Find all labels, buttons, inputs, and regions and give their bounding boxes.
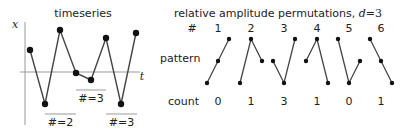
permutation-columns: 102133415061 [205,22,394,108]
pattern-point [293,37,297,41]
timeseries-point [27,47,33,53]
timeseries-point [57,27,63,33]
permutation-pattern [273,39,295,83]
permutation-index: 3 [281,22,288,35]
pattern-point [326,81,330,85]
pattern-point [358,59,362,63]
pattern-point [368,37,372,41]
permutation-count: 1 [378,95,385,108]
annotation-label: #=3 [109,116,134,129]
annotation-label: #=3 [78,92,103,105]
permutation-count: 1 [314,95,321,108]
timeseries-title: timeseries [54,7,112,20]
permutation-column: 41 [304,22,330,108]
pattern-point [205,81,209,85]
permutation-pattern [306,39,328,83]
timeseries-point [133,30,139,36]
annotation-label: #=2 [48,116,73,129]
pattern-point [271,59,275,63]
t-axis-label: t [140,70,145,83]
pattern-point [390,81,394,85]
pattern-point [304,59,308,63]
permutation-pattern [338,39,360,83]
timeseries-point [118,101,124,107]
permutation-index: 6 [378,22,385,35]
pattern-point [227,37,231,41]
permutation-column: 10 [205,22,231,108]
index-row-label: # [187,22,196,35]
permutation-count: 3 [281,95,288,108]
pattern-point [347,81,351,85]
permutation-index: 2 [248,22,255,35]
pattern-point [249,37,253,41]
pattern-point [216,59,220,63]
timeseries-panel: timeseries x t #=2#=3#=3 [12,7,145,129]
permutation-column: 61 [368,22,394,108]
timeseries-point [73,70,79,76]
permutation-count: 1 [248,95,255,108]
timeseries-point [103,35,109,41]
permutation-column: 21 [238,22,264,108]
permutations-title: relative amplitude permutations, d=3 [174,7,382,20]
pattern-row-label: pattern [160,52,200,65]
timeseries-point [88,77,94,83]
count-row-label: count [168,95,200,108]
pattern-point [260,59,264,63]
permutation-index: 4 [314,22,321,35]
permutation-index: 5 [346,22,353,35]
pattern-point [238,81,242,85]
pattern-point [379,59,383,63]
pattern-point [336,37,340,41]
permutation-column: 50 [336,22,362,108]
pattern-point [282,81,286,85]
permutation-column: 33 [271,22,297,108]
pattern-point [315,37,319,41]
permutation-pattern [240,39,262,83]
permutations-panel: relative amplitude permutations, d=3 # p… [160,7,394,108]
permutation-diagram: timeseries x t #=2#=3#=3 relative amplit… [0,0,407,131]
permutation-count: 0 [346,95,353,108]
timeseries-point [42,101,48,107]
permutation-index: 1 [215,22,222,35]
permutation-count: 0 [215,95,222,108]
x-axis-label: x [12,18,19,31]
